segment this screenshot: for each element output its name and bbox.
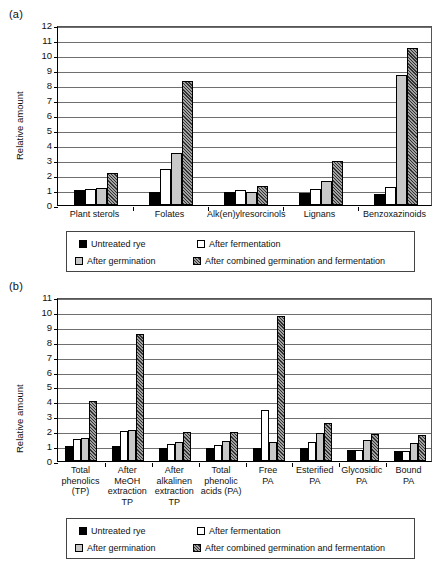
bar [112,446,120,461]
bar [96,188,107,205]
y-tick-mark [54,72,58,73]
y-tick-mark [54,314,58,315]
legend-item: After combined germination and fermentat… [193,256,385,266]
y-tick-mark [54,433,58,434]
gridline [58,359,431,360]
bar [310,189,321,206]
bar [246,192,257,205]
bar [324,423,332,461]
bar [74,190,85,205]
gridline [58,147,431,148]
x-axis-category-label: Bound PA [385,465,432,486]
x-axis-category-label: Esterified PA [291,465,338,486]
y-tick-label: 10 [24,51,55,61]
y-tick-label: 3 [24,413,55,423]
gridline [58,132,431,133]
y-tick-mark [54,87,58,88]
y-tick-mark [54,344,58,345]
gridline [58,299,431,300]
y-tick-label: 10 [24,308,55,318]
y-tick-mark [54,374,58,375]
y-tick-mark [54,132,58,133]
bar [171,153,182,206]
y-tick-label: 6 [24,111,55,121]
x-axis-category-label: Total phenolic acids (PA) [198,465,245,497]
bar [167,444,175,461]
gridline [58,374,431,375]
dark-hatched-square-icon [193,257,201,265]
bar [230,432,238,461]
bar [355,450,363,461]
gridline [58,117,431,118]
bar [374,194,385,205]
gridline [58,87,431,88]
legend-label: Untreated rye [91,526,146,536]
bar [253,448,261,461]
y-tick-label: 7 [24,353,55,363]
y-tick-label: 8 [24,81,55,91]
panel-b-legend: Untreated ryeAfter fermentationAfter ger… [66,518,415,559]
legend-item: After germination [75,256,156,266]
legend-label: Untreated rye [91,239,146,249]
y-tick-label: 9 [24,323,55,333]
light-gray-square-icon [75,257,83,265]
gridline [58,162,431,163]
gridline [58,344,431,345]
y-tick-label: 1 [24,442,55,452]
bar [65,446,73,461]
bar [149,192,160,206]
figure-root: (a) Relative amount 0123456789101112 Pla… [0,0,439,570]
bar [224,192,235,205]
bar [385,187,396,205]
bar [73,439,81,461]
bar [85,189,96,205]
y-tick-mark [54,192,58,193]
y-tick-mark [54,403,58,404]
bar [396,75,407,206]
y-tick-label: 11 [24,36,55,46]
gridline [58,314,431,315]
y-tick-label: 8 [24,338,55,348]
x-axis-category-label: Lignans [282,209,357,220]
legend-item: Untreated rye [79,526,146,536]
y-tick-mark [54,388,58,389]
bar [182,81,193,205]
bar [371,434,379,461]
legend-item: After combined germination and fermentat… [193,543,385,553]
y-tick-mark [54,27,58,28]
bar [214,445,222,461]
legend-item: After fermentation [197,239,281,249]
y-tick-mark [54,329,58,330]
y-tick-label: 2 [24,171,55,181]
panel-b-y-axis: 01234567891011 [24,298,55,462]
y-tick-label: 2 [24,427,55,437]
x-axis-category-label: After alkalinen extraction TP [151,465,198,507]
x-axis-category-label: Glycosidic PA [338,465,385,486]
bar [222,441,230,461]
x-axis-category-label: After MeOH extraction TP [104,465,151,507]
y-tick-label: 6 [24,368,55,378]
bar [402,451,410,461]
bar [261,410,269,461]
panel-a-label: (a) [9,8,23,20]
y-tick-mark [54,448,58,449]
white-square-icon [197,240,205,248]
bar [257,186,268,205]
x-axis-category-label: Alk(en)ylresorcinols [207,209,282,220]
gridline [58,388,431,389]
bar [299,193,310,205]
bar [160,169,171,205]
bar [128,430,136,461]
bar [321,181,332,205]
gridline [58,42,431,43]
bar [269,442,277,461]
panel-b-x-axis-labels: Total phenolics (TP)After MeOH extractio… [57,465,432,513]
bar [410,443,418,461]
legend-item: After fermentation [197,526,281,536]
bar [175,442,183,461]
y-tick-label: 4 [24,141,55,151]
gridline [58,27,431,28]
bar [183,432,191,461]
y-tick-label: 0 [24,201,55,211]
legend-label: After germination [87,543,156,553]
